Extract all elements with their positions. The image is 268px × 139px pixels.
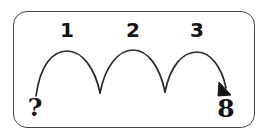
start-value-unknown: ? <box>21 95 49 120</box>
arc-hop-3 <box>165 52 226 92</box>
arc-hop-1 <box>36 51 100 96</box>
hop-label-3: 3 <box>184 20 210 40</box>
arc-hop-2 <box>100 50 165 93</box>
end-value: 8 <box>212 96 240 121</box>
diagram-canvas: 1 2 3 ? 8 <box>0 0 268 139</box>
hop-label-1: 1 <box>54 20 80 40</box>
hop-label-2: 2 <box>120 20 146 40</box>
